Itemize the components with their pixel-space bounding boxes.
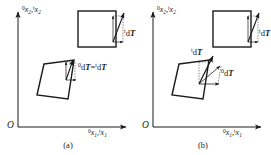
parallelogram-dt-lower-label-b: 0dT (221, 68, 233, 77)
parallelogram-dt-upper-label-b: tdT (191, 47, 202, 56)
panel-b-graphics (135, 0, 271, 155)
square-dt-T-b: T (265, 28, 270, 38)
square-dt-label-b: tdT (259, 28, 270, 37)
par-dt-T2-a: T (101, 62, 106, 72)
x-axis-label-a: 0x1,tx1 (88, 129, 107, 139)
panel-b: 0x2,tx2 0x1,tx1 O tdT tdT 0dT (b) (135, 0, 271, 155)
caption-b: (b) (183, 140, 223, 150)
panel-a-graphics (0, 0, 136, 155)
square-dt-arrows-a (113, 13, 124, 42)
undeformed-square-a (78, 11, 116, 47)
panel-a: 0x2,tx2 0x1,tx1 O tdT 0dT=tdT (a) (0, 0, 136, 155)
deformed-parallelogram-a (37, 60, 74, 99)
deformed-parallelogram-b (172, 60, 209, 99)
parallelogram-dt-label-a: 0dT=tdT (78, 62, 106, 71)
square-dt-arrows-b (248, 13, 259, 42)
square-dt-label-a: tdT (124, 28, 135, 37)
origin-label-b: O (142, 121, 149, 131)
x-axis-sub2-a: 1 (104, 132, 107, 138)
x-axis-sub2-b: 1 (239, 132, 242, 138)
origin-label-a: O (7, 121, 14, 131)
y-axis-sub2-b: 2 (173, 9, 176, 15)
figure-root: 0x2,tx2 0x1,tx1 O tdT 0dT=tdT (a) (0, 0, 271, 155)
x-axis-label-b: 0x1,tx1 (223, 129, 242, 139)
par-dt-up-T-b: T (197, 47, 202, 57)
par-dt-lo-T-b: T (228, 68, 233, 78)
y-axis-label-a: 0x2,tx2 (22, 6, 41, 16)
y-axis-sub2-a: 2 (38, 9, 41, 15)
y-axis-label-b: 0x2,tx2 (157, 6, 176, 16)
undeformed-square-b (213, 11, 251, 47)
caption-a: (a) (48, 140, 88, 150)
